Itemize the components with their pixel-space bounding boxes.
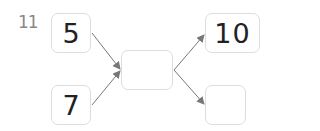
input-box-7: 7 [51,85,91,125]
arrow-middle-to-empty [174,70,204,104]
arrow-middle-to-10 [174,35,204,70]
input-box-5: 5 [51,13,91,53]
middle-answer-box[interactable] [121,50,173,90]
output-answer-box[interactable] [205,85,246,125]
arrow-5-to-middle [92,33,120,69]
arrow-7-to-middle [92,71,120,105]
output-box-10: 10 [205,13,260,53]
